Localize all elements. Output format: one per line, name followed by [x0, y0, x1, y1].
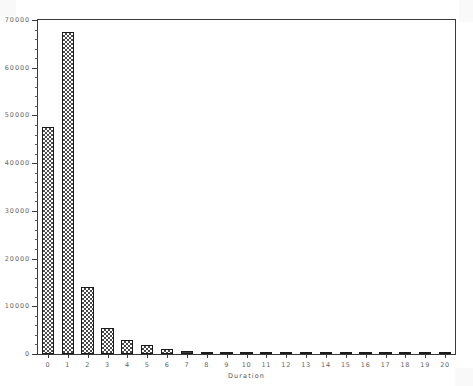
x-axis-tick-label: 11 — [262, 361, 272, 369]
x-axis-tick — [48, 354, 49, 358]
y-axis-minor-tick — [35, 335, 38, 336]
x-axis-tick-label: 10 — [242, 361, 252, 369]
y-axis-minor-tick — [35, 201, 38, 202]
x-axis-tick — [187, 354, 188, 358]
x-axis-tick — [167, 354, 168, 358]
y-axis-minor-tick — [35, 239, 38, 240]
y-axis-minor-tick — [35, 287, 38, 288]
x-axis-tick-label: 7 — [185, 361, 190, 369]
x-axis-tick — [425, 354, 426, 358]
y-axis-tick — [32, 306, 38, 307]
x-axis-title: Duration — [228, 372, 265, 380]
x-axis-tick — [247, 354, 248, 358]
y-axis-tick — [32, 211, 38, 212]
x-axis-tick — [366, 354, 367, 358]
y-axis-minor-tick — [35, 39, 38, 40]
x-axis-tick — [346, 354, 347, 358]
x-axis-tick-label: 13 — [301, 361, 311, 369]
y-axis-tick-label: 60000 — [5, 64, 30, 72]
x-axis-tick — [386, 354, 387, 358]
y-axis-minor-tick — [35, 87, 38, 88]
y-axis-minor-tick — [35, 77, 38, 78]
y-axis-minor-tick — [35, 135, 38, 136]
y-axis-minor-tick — [35, 230, 38, 231]
y-axis-tick — [32, 354, 38, 355]
x-axis-tick-label: 16 — [361, 361, 371, 369]
x-axis-tick-label: 17 — [381, 361, 391, 369]
y-axis-tick — [32, 115, 38, 116]
y-axis-minor-tick — [35, 297, 38, 298]
x-axis-tick-label: 6 — [165, 361, 170, 369]
y-axis-minor-tick — [35, 154, 38, 155]
x-axis-tick — [108, 354, 109, 358]
y-axis-minor-tick — [35, 173, 38, 174]
x-axis-tick — [405, 354, 406, 358]
y-axis-tick — [32, 163, 38, 164]
y-axis-minor-tick — [35, 49, 38, 50]
bar — [81, 287, 93, 354]
x-axis-tick — [207, 354, 208, 358]
x-axis-tick — [88, 354, 89, 358]
scan-artifact-top-right — [459, 0, 473, 22]
x-axis-tick — [68, 354, 69, 358]
y-axis-tick-label: 0 — [25, 350, 30, 358]
y-axis-tick-label: 20000 — [5, 255, 30, 263]
y-axis-tick-label: 40000 — [5, 159, 30, 167]
y-axis-tick — [32, 259, 38, 260]
y-axis-tick-label: 50000 — [5, 111, 30, 119]
x-axis-tick-label: 0 — [46, 361, 51, 369]
plot-frame: 0100002000030000400005000060000700000123… — [37, 19, 456, 355]
x-axis-tick — [127, 354, 128, 358]
y-axis-minor-tick — [35, 182, 38, 183]
y-axis-minor-tick — [35, 58, 38, 59]
x-axis-tick — [147, 354, 148, 358]
y-axis-minor-tick — [35, 192, 38, 193]
bar — [141, 345, 153, 354]
plot-area — [38, 20, 455, 354]
x-axis-tick — [306, 354, 307, 358]
x-axis-tick-label: 8 — [204, 361, 209, 369]
x-axis-tick — [266, 354, 267, 358]
y-axis-minor-tick — [35, 30, 38, 31]
y-axis-minor-tick — [35, 278, 38, 279]
x-axis-tick-label: 18 — [401, 361, 411, 369]
y-axis-tick-label: 10000 — [5, 302, 30, 310]
y-axis-minor-tick — [35, 316, 38, 317]
y-axis-tick — [32, 20, 38, 21]
bar — [121, 340, 133, 354]
x-axis-tick-label: 5 — [145, 361, 150, 369]
x-axis-tick-label: 2 — [85, 361, 90, 369]
x-axis-tick-label: 4 — [125, 361, 130, 369]
y-axis-minor-tick — [35, 220, 38, 221]
x-axis-tick-label: 20 — [440, 361, 450, 369]
bar — [101, 328, 113, 354]
y-axis-minor-tick — [35, 249, 38, 250]
scan-artifact-bottom-right — [455, 368, 473, 386]
x-axis-tick-label: 9 — [224, 361, 229, 369]
y-axis-minor-tick — [35, 268, 38, 269]
y-axis-tick-label: 30000 — [5, 207, 30, 215]
x-axis-tick — [445, 354, 446, 358]
bar — [42, 127, 54, 354]
bar — [62, 32, 74, 354]
y-axis-minor-tick — [35, 125, 38, 126]
y-axis-tick-label: 70000 — [5, 16, 30, 24]
scan-artifact-top-left — [0, 0, 16, 16]
x-axis-tick — [326, 354, 327, 358]
x-axis-tick — [227, 354, 228, 358]
x-axis-tick-label: 1 — [65, 361, 70, 369]
y-axis-minor-tick — [35, 344, 38, 345]
y-axis-minor-tick — [35, 144, 38, 145]
x-axis-tick-label: 15 — [341, 361, 351, 369]
x-axis-tick-label: 14 — [321, 361, 331, 369]
y-axis-minor-tick — [35, 325, 38, 326]
figure-canvas: 0100002000030000400005000060000700000123… — [0, 0, 473, 386]
y-axis-minor-tick — [35, 96, 38, 97]
y-axis-tick — [32, 68, 38, 69]
y-axis-minor-tick — [35, 106, 38, 107]
x-axis-tick-label: 19 — [420, 361, 430, 369]
x-axis-tick-label: 12 — [281, 361, 291, 369]
x-axis-tick-label: 3 — [105, 361, 110, 369]
x-axis-tick — [286, 354, 287, 358]
